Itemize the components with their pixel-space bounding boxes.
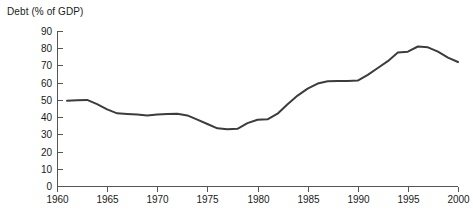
x-axis-tick-label: 1970 <box>146 194 169 205</box>
x-axis-tick-label: 2000 <box>447 194 470 205</box>
data-series-group <box>67 47 458 130</box>
y-axis-tick-label: 30 <box>41 129 53 140</box>
y-axis-tick-label: 80 <box>41 43 53 54</box>
chart-container: Debt (% of GDP) 0102030405060708090 1960… <box>0 0 473 218</box>
y-axis-tick-label: 20 <box>41 147 53 158</box>
x-axis-tick-label: 1985 <box>297 194 320 205</box>
data-series-line <box>67 47 458 130</box>
y-axis: 0102030405060708090 <box>41 26 63 192</box>
y-axis-tick-label: 70 <box>41 60 53 71</box>
y-axis-tick-label: 50 <box>41 95 53 106</box>
y-axis-tick-label: 10 <box>41 164 53 175</box>
y-axis-tick-label: 90 <box>41 26 53 37</box>
line-chart-plot: 0102030405060708090 19601965197019751980… <box>0 0 473 218</box>
y-axis-tick-label: 40 <box>41 112 53 123</box>
x-axis-tick-label: 1980 <box>247 194 270 205</box>
x-axis-tick-label: 1995 <box>397 194 420 205</box>
y-axis-tick-label: 60 <box>41 78 53 89</box>
x-axis-tick-label: 1960 <box>46 194 69 205</box>
x-axis: 196019651970197519801985199019952000 <box>46 187 470 206</box>
y-axis-tick-label: 0 <box>46 181 52 192</box>
x-axis-tick-label: 1990 <box>347 194 370 205</box>
x-axis-tick-label: 1975 <box>196 194 219 205</box>
x-axis-tick-label: 1965 <box>96 194 119 205</box>
